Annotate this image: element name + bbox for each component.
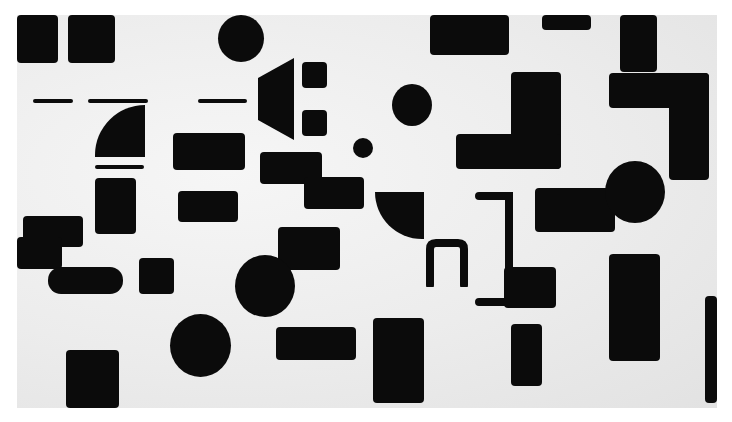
rect	[535, 188, 615, 232]
rect	[542, 15, 591, 30]
rect	[68, 15, 115, 63]
rect	[17, 237, 62, 269]
rect	[373, 318, 424, 403]
rect	[66, 350, 119, 408]
rect	[278, 227, 340, 270]
rect	[17, 15, 58, 63]
rect	[48, 267, 123, 294]
rect	[456, 134, 561, 169]
line	[88, 99, 148, 103]
rect	[139, 258, 174, 294]
line	[198, 99, 247, 103]
rect	[95, 178, 136, 234]
circle	[235, 255, 295, 317]
rect	[304, 177, 364, 209]
circle	[170, 314, 231, 377]
artwork-canvas	[17, 15, 717, 408]
rect	[609, 254, 660, 361]
rect	[173, 133, 245, 170]
rect	[669, 73, 709, 180]
line	[95, 165, 144, 169]
circle	[392, 84, 432, 126]
arch-shape	[426, 239, 470, 287]
circle	[353, 138, 373, 158]
rect	[430, 15, 509, 55]
trapezoid	[258, 58, 298, 140]
circle	[605, 161, 665, 223]
circle	[218, 15, 264, 62]
rect	[302, 62, 327, 88]
quarter-circle	[375, 192, 424, 239]
rect	[178, 191, 238, 222]
rect	[504, 267, 556, 308]
rect	[276, 327, 356, 360]
rect	[302, 110, 327, 136]
rect	[705, 296, 717, 403]
rect	[620, 15, 657, 72]
rect	[511, 324, 542, 386]
line	[33, 99, 73, 103]
quarter-circle	[95, 105, 145, 157]
